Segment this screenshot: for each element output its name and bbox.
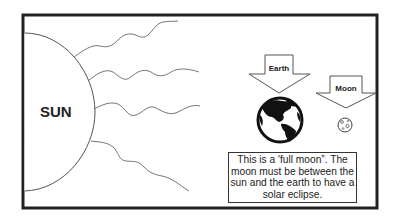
caption-line-3: sun and the earth to have a [229, 177, 356, 189]
earth-label: Earth [269, 64, 290, 73]
earth-globe [258, 98, 302, 142]
caption-line-4: solar eclipse. [229, 189, 356, 201]
caption-line-2: moon must be between the [229, 166, 356, 178]
caption-line-1: This is a 'full moon”. The [229, 154, 356, 166]
sun-label: SUN [40, 103, 72, 120]
caption-box: This is a 'full moon”. The moon must be … [228, 152, 357, 203]
moon-label: Moon [335, 84, 356, 93]
moon [338, 118, 352, 132]
moon-outline [338, 118, 352, 132]
